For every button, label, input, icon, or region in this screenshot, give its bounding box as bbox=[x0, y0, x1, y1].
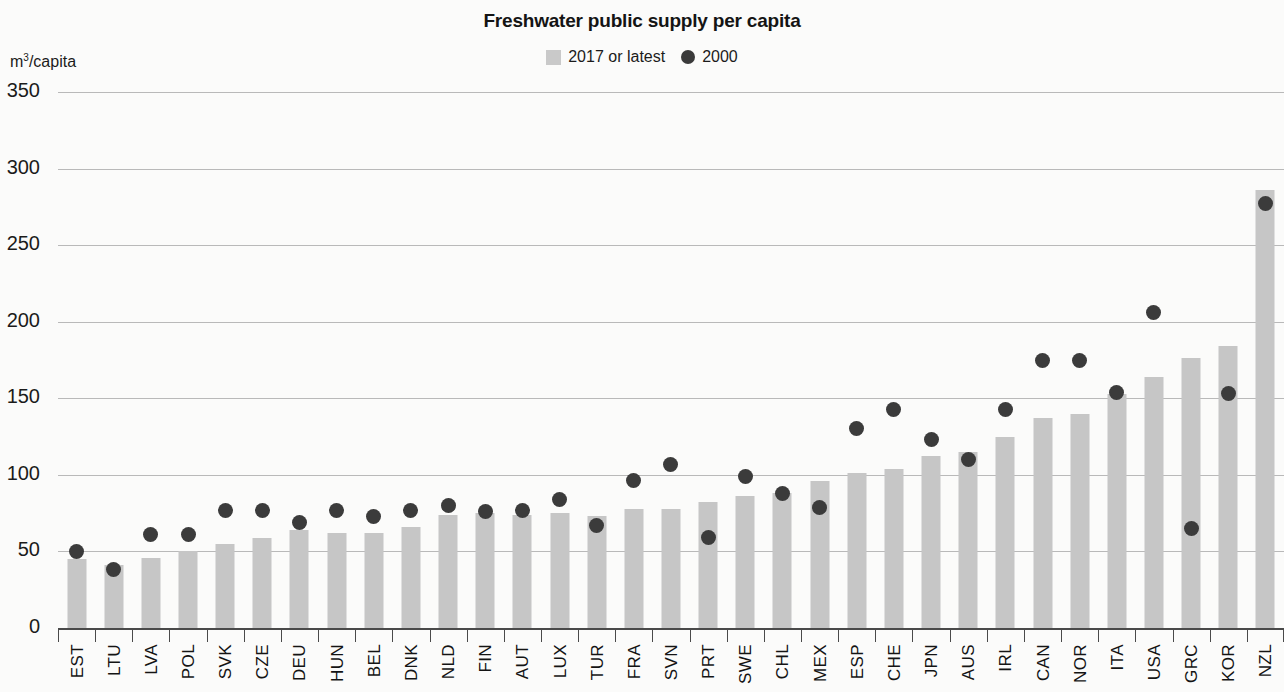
bar-column bbox=[95, 92, 132, 628]
x-axis-ticks bbox=[58, 629, 1284, 643]
chart-page: Freshwater public supply per capita 2017… bbox=[0, 0, 1284, 692]
bar-dnk bbox=[401, 527, 420, 628]
x-axis-tick bbox=[727, 629, 728, 642]
bar-column bbox=[207, 92, 244, 628]
bar-column bbox=[281, 92, 318, 628]
y-axis-tick-label: 50 bbox=[0, 538, 62, 561]
bar-column bbox=[58, 92, 95, 628]
x-axis-tick bbox=[392, 629, 393, 642]
bar-column bbox=[169, 92, 206, 628]
x-axis-tick bbox=[207, 629, 208, 642]
x-axis-tick bbox=[690, 629, 691, 642]
dot-lva bbox=[143, 527, 158, 542]
bar-irl bbox=[996, 437, 1015, 628]
x-axis-label-ita: ITA bbox=[1108, 644, 1128, 670]
legend-entry-bars: 2017 or latest bbox=[546, 48, 665, 66]
dot-lux bbox=[552, 492, 567, 507]
x-axis-label-nzl: NZL bbox=[1256, 644, 1276, 677]
y-axis-tick-label: 300 bbox=[0, 156, 62, 179]
bar-column bbox=[392, 92, 429, 628]
bar-column bbox=[1135, 92, 1172, 628]
x-axis-tick bbox=[950, 629, 951, 642]
x-axis-tick bbox=[58, 629, 59, 642]
bar-ita bbox=[1107, 394, 1126, 628]
dot-cze bbox=[255, 503, 270, 518]
x-axis-label-mex: MEX bbox=[811, 644, 831, 682]
bar-tur bbox=[587, 516, 606, 628]
x-axis-label-lva: LVA bbox=[142, 644, 162, 675]
x-axis-label-fin: FIN bbox=[476, 644, 496, 673]
x-axis-tick bbox=[95, 629, 96, 642]
x-axis-tick bbox=[1135, 629, 1136, 642]
x-axis-label-hun: HUN bbox=[328, 644, 348, 682]
bar-nld bbox=[439, 515, 458, 628]
x-axis-tick bbox=[615, 629, 616, 642]
x-axis-label-irl: IRL bbox=[996, 644, 1016, 672]
x-axis-label-svk: SVK bbox=[216, 644, 236, 679]
x-axis-tick bbox=[132, 629, 133, 642]
x-axis-label-svn: SVN bbox=[662, 644, 682, 680]
x-axis-label-cze: CZE bbox=[253, 644, 273, 679]
x-axis-tick bbox=[912, 629, 913, 642]
dot-aus bbox=[961, 452, 976, 467]
x-axis-tick bbox=[875, 629, 876, 642]
x-axis-label-bel: BEL bbox=[365, 644, 385, 677]
x-axis-label-che: CHE bbox=[885, 644, 905, 681]
x-axis-label-deu: DEU bbox=[290, 644, 310, 681]
bar-lux bbox=[550, 513, 569, 628]
bar-can bbox=[1033, 418, 1052, 628]
x-axis-label-can: CAN bbox=[1034, 644, 1054, 681]
bar-esp bbox=[847, 473, 866, 628]
dot-usa bbox=[1146, 305, 1161, 320]
x-axis-label-dnk: DNK bbox=[402, 644, 422, 681]
x-axis-label-esp: ESP bbox=[848, 644, 868, 679]
bar-chl bbox=[773, 493, 792, 628]
dot-svn bbox=[663, 457, 678, 472]
x-axis-tick bbox=[541, 629, 542, 642]
dot-mex bbox=[812, 500, 827, 515]
dot-fra bbox=[626, 473, 641, 488]
series-layer bbox=[58, 92, 1284, 628]
y-axis-tick-label: 200 bbox=[0, 309, 62, 332]
y-axis-tick-label: 0 bbox=[0, 615, 62, 638]
bar-column bbox=[727, 92, 764, 628]
dot-bel bbox=[366, 509, 381, 524]
bar-column bbox=[1173, 92, 1210, 628]
bar-column bbox=[355, 92, 392, 628]
dot-esp bbox=[849, 421, 864, 436]
x-axis-label-grc: GRC bbox=[1182, 644, 1202, 683]
x-axis-label-fra: FRA bbox=[625, 644, 645, 679]
bar-column bbox=[690, 92, 727, 628]
dot-kor bbox=[1221, 386, 1236, 401]
bar-column bbox=[764, 92, 801, 628]
x-axis-tick bbox=[467, 629, 468, 642]
bar-nor bbox=[1070, 414, 1089, 628]
dot-ita bbox=[1109, 385, 1124, 400]
y-axis-title: m3/capita bbox=[10, 52, 76, 71]
bar-grc bbox=[1182, 358, 1201, 628]
bar-deu bbox=[290, 530, 309, 628]
legend-label-bars: 2017 or latest bbox=[568, 48, 665, 66]
dot-swe bbox=[738, 469, 753, 484]
dot-hun bbox=[329, 503, 344, 518]
x-axis-tick bbox=[764, 629, 765, 642]
x-axis-label-nor: NOR bbox=[1071, 644, 1091, 683]
x-axis-label-usa: USA bbox=[1145, 644, 1165, 680]
dot-tur bbox=[589, 518, 604, 533]
dot-can bbox=[1035, 353, 1050, 368]
bar-column bbox=[950, 92, 987, 628]
x-axis-tick bbox=[318, 629, 319, 642]
x-axis-tick bbox=[355, 629, 356, 642]
bar-fra bbox=[624, 509, 643, 628]
x-axis-label-tur: TUR bbox=[588, 644, 608, 680]
dot-deu bbox=[292, 515, 307, 530]
bar-lva bbox=[141, 558, 160, 628]
dot-che bbox=[886, 402, 901, 417]
bar-column bbox=[132, 92, 169, 628]
x-axis-label-lux: LUX bbox=[551, 644, 571, 678]
dot-nld bbox=[441, 498, 456, 513]
bar-svk bbox=[216, 544, 235, 628]
bar-usa bbox=[1144, 377, 1163, 628]
bar-column bbox=[652, 92, 689, 628]
dot-dnk bbox=[403, 503, 418, 518]
